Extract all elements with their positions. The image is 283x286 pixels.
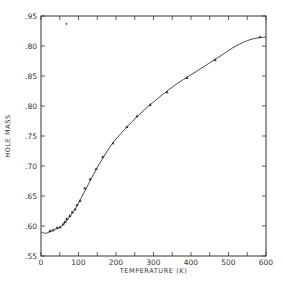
y-tick-label: .85 xyxy=(25,72,37,81)
x-tick-label: 300 xyxy=(146,258,161,267)
data-point-marker xyxy=(258,35,261,38)
x-tick-label: 100 xyxy=(71,258,86,267)
x-tick-label: 400 xyxy=(184,258,199,267)
data-point-marker xyxy=(78,199,81,202)
x-tick-label: 600 xyxy=(259,258,274,267)
data-point-marker xyxy=(48,229,51,232)
fit-curve xyxy=(41,37,266,233)
y-tick-label: .95 xyxy=(25,12,37,21)
y-tick-label: .55 xyxy=(25,252,37,261)
y-axis-title: HOLE MASS xyxy=(4,114,12,158)
y-tick-label: .80 xyxy=(25,42,37,51)
y-tick-label: .65 xyxy=(25,192,37,201)
x-tick-label: 500 xyxy=(221,258,236,267)
y-tick-label: .75 xyxy=(25,132,37,141)
x-axis-title: TEMPERATURE (K) xyxy=(119,267,188,275)
annotations xyxy=(66,23,68,25)
hole-mass-chart: .55.60.65.70.75.80.85.80.95 010020030040… xyxy=(0,0,283,286)
x-tick-label: 200 xyxy=(109,258,124,267)
stray-mark xyxy=(66,23,68,25)
data-point-marker xyxy=(56,226,59,229)
x-tick-label: 0 xyxy=(39,258,44,267)
y-axis: .55.60.65.70.75.80.85.80.95 xyxy=(25,12,266,261)
y-tick-label: .80 xyxy=(25,102,37,111)
plot-frame xyxy=(41,16,266,256)
x-axis: 0100200300400500600 xyxy=(39,16,274,267)
plot-border xyxy=(41,16,266,256)
data-points xyxy=(48,35,261,232)
y-tick-label: .60 xyxy=(25,222,37,231)
y-tick-label: .70 xyxy=(25,162,37,171)
